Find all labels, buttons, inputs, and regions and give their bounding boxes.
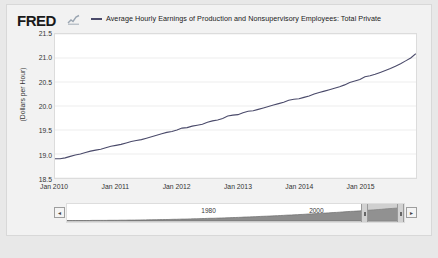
y-tick-label: 20.0 [18, 103, 52, 110]
navigator-mini-chart [67, 204, 404, 222]
y-tick-label: 19.0 [18, 151, 52, 158]
y-tick-label: 20.5 [18, 78, 52, 85]
x-tick-label: Jan 2011 [102, 183, 129, 190]
x-tick-label: Jan 2013 [224, 183, 252, 190]
mini-line-chart-icon [67, 14, 80, 25]
scroll-right-button[interactable]: ▸ [406, 207, 417, 218]
fred-logo[interactable]: FRED [17, 12, 56, 29]
x-tick-label: Jan 2015 [347, 183, 375, 190]
chart-header: FRED Average Hourly Earnings of Producti… [7, 5, 431, 31]
plot-area[interactable] [54, 33, 417, 179]
y-tick-label: 19.5 [18, 127, 52, 134]
legend-color-swatch [91, 18, 102, 20]
fred-chart-card: FRED Average Hourly Earnings of Producti… [6, 4, 432, 236]
navigator-year-1980: 1980 [201, 207, 215, 214]
y-tick-label: 18.5 [18, 176, 52, 183]
handle-grip [364, 212, 366, 216]
navigator-handle-left[interactable] [361, 203, 368, 223]
gridlines [55, 34, 416, 178]
navigator-series-path [67, 208, 404, 222]
x-tick-label: Jan 2010 [40, 183, 68, 190]
navigator-year-2000: 2000 [309, 207, 323, 214]
x-tick-label: Jan 2014 [285, 183, 313, 190]
chart-legend: Average Hourly Earnings of Production an… [91, 14, 381, 23]
series-line [55, 34, 416, 178]
plot-area-wrapper: (Dollars per Hour) 21.521.020.520.019.51… [7, 29, 431, 189]
scroll-left-button[interactable]: ◂ [54, 207, 65, 218]
x-axis-ticks: Jan 2010Jan 2011Jan 2012Jan 2013Jan 2014… [54, 183, 417, 197]
range-navigator[interactable]: ◂ 1980 2000 ▸ [54, 201, 417, 227]
y-axis-ticks: 21.521.020.520.019.519.018.5 [12, 29, 52, 179]
navigator-handle-right[interactable] [397, 203, 404, 223]
navigator-track[interactable]: 1980 2000 [66, 203, 405, 223]
y-tick-label: 21.0 [18, 54, 52, 61]
legend-series-label: Average Hourly Earnings of Production an… [106, 14, 381, 23]
y-tick-label: 21.5 [18, 30, 52, 37]
navigator-selection[interactable] [364, 203, 401, 223]
handle-grip [400, 212, 402, 216]
x-tick-label: Jan 2012 [163, 183, 191, 190]
